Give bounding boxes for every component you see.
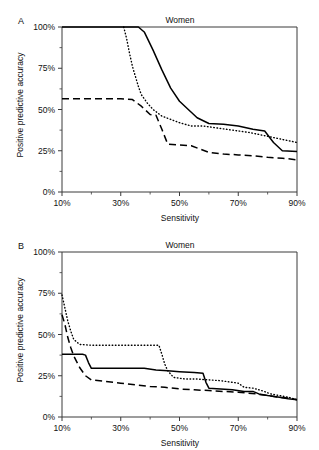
b-y-tick-label: 100%	[33, 247, 55, 257]
panel-b-x-axis-title: Sensitivity	[120, 438, 240, 448]
panel-a-y-axis-title: Positive predictive accuracy	[15, 35, 25, 175]
b-x-tick-label: 50%	[171, 423, 188, 433]
a-y-tick-label: 25%	[38, 146, 55, 156]
panel-a-y-tick-labels: 0%25%50%75%100%	[33, 22, 55, 197]
a-x-tick-label: 70%	[230, 198, 247, 208]
figure-container: A Women Positive predictive accuracy Sen…	[0, 0, 319, 450]
b-x-tick-label: 90%	[288, 423, 305, 433]
a-y-tick-label: 100%	[33, 22, 55, 32]
b-series-dashed	[62, 315, 297, 400]
a-y-tick-label: 0%	[43, 187, 56, 197]
panel-b-tick-marks	[58, 252, 297, 421]
b-series-dotted	[62, 295, 297, 400]
panel-a-tick-marks	[58, 27, 297, 196]
panel-b-series-group	[62, 295, 297, 400]
a-series-solid	[62, 27, 297, 152]
panel-a-series-group	[62, 27, 297, 160]
a-x-tick-label: 30%	[112, 198, 129, 208]
a-x-tick-label: 10%	[53, 198, 70, 208]
panel-a-title: Women	[120, 15, 240, 25]
panel-b-x-tick-labels: 10%30%50%70%90%	[53, 423, 305, 433]
b-y-tick-label: 25%	[38, 371, 55, 381]
b-y-tick-label: 75%	[38, 288, 55, 298]
b-series-solid	[62, 354, 297, 399]
b-y-tick-label: 0%	[43, 412, 56, 422]
b-x-tick-label: 70%	[230, 423, 247, 433]
b-x-tick-label: 30%	[112, 423, 129, 433]
panel-b-plot: 0%25%50%75%100% 10%30%50%70%90%	[0, 225, 319, 450]
a-series-dashed	[62, 99, 297, 160]
b-x-tick-label: 10%	[53, 423, 70, 433]
panel-a-x-tick-labels: 10%30%50%70%90%	[53, 198, 305, 208]
panel-a-axes	[58, 27, 297, 196]
b-y-tick-label: 50%	[38, 330, 55, 340]
panel-a-x-axis-title: Sensitivity	[120, 213, 240, 223]
panel-b-y-tick-labels: 0%25%50%75%100%	[33, 247, 55, 422]
panel-b-frame	[62, 252, 297, 417]
chart-panel-a: A Women Positive predictive accuracy Sen…	[0, 0, 319, 225]
panel-a-letter: A	[18, 16, 24, 26]
panel-b-title: Women	[120, 240, 240, 250]
panel-a-frame	[62, 27, 297, 192]
a-y-tick-label: 50%	[38, 105, 55, 115]
panel-b-axes	[58, 252, 297, 421]
a-x-tick-label: 90%	[288, 198, 305, 208]
panel-b-letter: B	[18, 241, 24, 251]
chart-panel-b: B Women Positive predictive accuracy Sen…	[0, 225, 319, 450]
a-x-tick-label: 50%	[171, 198, 188, 208]
a-y-tick-label: 75%	[38, 63, 55, 73]
panel-a-plot: 0%25%50%75%100% 10%30%50%70%90%	[0, 0, 319, 225]
panel-b-y-axis-title: Positive predictive accuracy	[15, 260, 25, 400]
